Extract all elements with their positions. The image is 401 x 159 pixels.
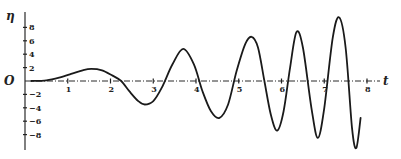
y-tick-label: 4	[29, 49, 35, 59]
x-tick-label: 4	[194, 84, 200, 94]
x-tick-label: 3	[151, 84, 157, 94]
x-tick-label: 6	[280, 84, 286, 94]
origin-label: O	[4, 74, 15, 88]
y-tick-label: −2	[29, 89, 41, 99]
chart-area: 12345678 8642−2−4−6−8 η t O	[0, 0, 401, 159]
y-axis-label: η	[6, 9, 15, 23]
y-tick-label: −8	[29, 130, 42, 140]
x-tick-label: 8	[365, 84, 371, 94]
x-tick-label: 1	[66, 84, 72, 94]
y-tick-label: 2	[29, 63, 35, 73]
x-tick-label: 2	[109, 84, 115, 94]
y-tick-label: 6	[29, 36, 35, 46]
x-tick-label: 5	[237, 84, 243, 94]
x-axis-label: t	[383, 74, 389, 88]
y-tick-label: −4	[29, 103, 42, 113]
y-tick-label: −6	[29, 116, 42, 126]
y-tick-label: 8	[29, 22, 35, 32]
